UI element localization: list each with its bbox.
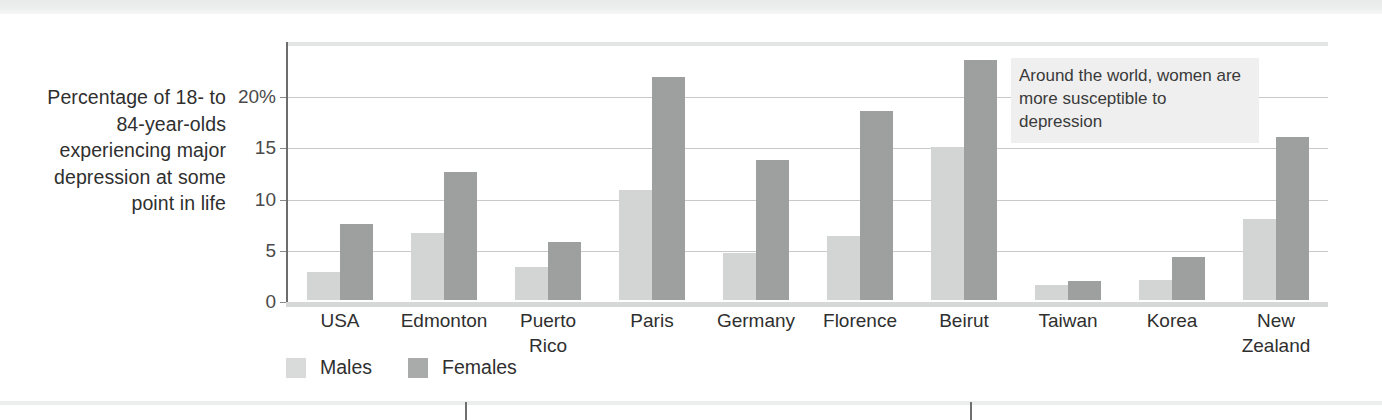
bar-females (1276, 137, 1309, 300)
legend-label-females: Females (442, 356, 517, 379)
y-axis-ticks: 05101520% (236, 42, 284, 304)
x-axis-label: Puerto Rico (496, 308, 600, 358)
bar-females (548, 242, 581, 300)
bar-females (1172, 257, 1205, 300)
bar-group (808, 44, 912, 300)
legend-swatch-males (286, 358, 306, 378)
x-axis-baseline (286, 302, 1328, 307)
x-axis-label: Taiwan (1016, 308, 1120, 333)
top-band-divider (0, 0, 1382, 14)
y-tick-label: 10 (255, 189, 276, 211)
bar-group (392, 44, 496, 300)
y-tick-label: 5 (265, 240, 276, 262)
bar-females (652, 77, 685, 300)
legend-label-males: Males (320, 356, 372, 379)
bar-males (619, 190, 652, 300)
chart-legend: Males Females (286, 356, 517, 379)
x-axis-label: USA (288, 308, 392, 333)
bar-group (496, 44, 600, 300)
bar-group (912, 44, 1016, 300)
chart-annotation: Around the world, women are more suscept… (1011, 58, 1259, 143)
bar-group (288, 44, 392, 300)
legend-swatch-females (408, 358, 428, 378)
page-tick-right (970, 402, 972, 420)
bar-males (931, 147, 964, 300)
bar-males (827, 236, 860, 301)
bar-group (600, 44, 704, 300)
bar-males (411, 233, 444, 300)
bar-males (1035, 285, 1068, 300)
y-tick-label: 15 (255, 137, 276, 159)
y-tick-label: 20% (238, 86, 276, 108)
bar-males (307, 272, 340, 300)
bottom-rule (0, 401, 1382, 405)
bar-females (1068, 281, 1101, 300)
y-axis-title: Percentage of 18- to 84-year-olds experi… (18, 84, 226, 217)
bar-males (1243, 219, 1276, 300)
bar-females (444, 172, 477, 300)
x-axis-label: New Zealand (1224, 308, 1328, 358)
bar-females (756, 160, 789, 300)
legend-item-females: Females (408, 356, 517, 379)
bar-females (860, 111, 893, 300)
bar-group (704, 44, 808, 300)
x-axis-labels: USAEdmontonPuerto RicoParisGermanyFloren… (288, 308, 1328, 358)
legend-item-males: Males (286, 356, 372, 379)
x-axis-label: Germany (704, 308, 808, 333)
x-axis-label: Paris (600, 308, 704, 333)
x-axis-label: Beirut (912, 308, 1016, 333)
bar-females (964, 60, 997, 300)
page-canvas: Percentage of 18- to 84-year-olds experi… (0, 0, 1382, 420)
bar-males (515, 267, 548, 300)
x-axis-label: Edmonton (392, 308, 496, 333)
bar-males (1139, 280, 1172, 300)
page-tick-left (465, 402, 467, 420)
x-axis-label: Florence (808, 308, 912, 333)
bar-males (723, 253, 756, 300)
x-axis-label: Korea (1120, 308, 1224, 333)
y-tick-label: 0 (265, 291, 276, 313)
bar-females (340, 224, 373, 300)
